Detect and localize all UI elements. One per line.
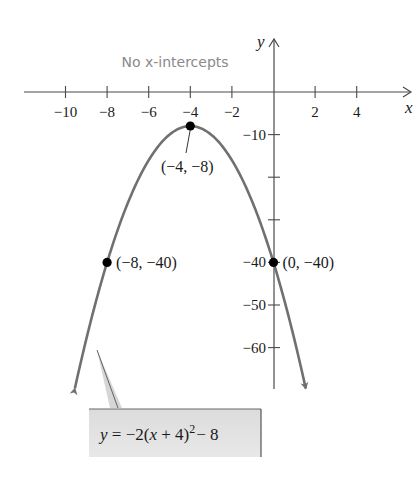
vertex-leader-line [186,131,190,153]
y-tick-label: −60 [243,340,266,356]
x-axis-label: x [404,98,413,117]
x-tick-label: −8 [99,104,115,120]
parabola-chart: No x-intercepts x y −10−8−6−4−224 −10−40… [0,0,416,481]
no-x-intercepts-note: No x-intercepts [121,54,228,70]
y-axis: y [255,32,279,389]
x-ticks: −10−8−6−4−224 [54,86,361,120]
y-axis-label: y [255,32,265,51]
point-label: (0, −40) [283,254,335,272]
point-marker [186,121,195,130]
x-tick-label: −10 [54,104,77,120]
equation-label: y = −2(x + 4)2− 8 [98,422,219,444]
x-tick-label: −6 [141,104,157,120]
y-tick-label: −50 [243,297,266,313]
x-tick-label: 4 [353,104,361,120]
x-tick-label: −2 [224,104,240,120]
callout-pointer [97,350,122,408]
x-tick-label: −4 [182,104,198,120]
point-label: (−8, −40) [116,254,177,272]
point-marker [269,258,278,267]
labeled-points: (−4, −8)(−8, −40)(0, −40) [103,121,335,272]
point-label: (−4, −8) [161,158,214,176]
x-tick-label: 2 [311,104,319,120]
y-tick-label: −40 [243,254,266,270]
y-tick-label: −10 [243,127,266,143]
point-marker [103,258,112,267]
equation-callout: y = −2(x + 4)2− 8 [89,350,261,457]
